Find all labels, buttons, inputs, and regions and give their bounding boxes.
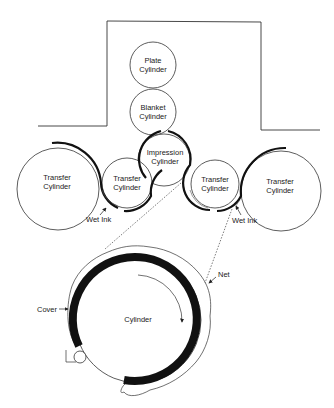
- cover-annotation: Cover: [37, 305, 68, 314]
- transfer-left-large-label-2: Cylinder: [43, 182, 71, 191]
- impression-cylinder-label-1: Impression: [147, 148, 184, 157]
- transfer-right-large-label-1: Transfer: [266, 177, 294, 186]
- blanket-cylinder: Blanket Cylinder: [130, 89, 176, 135]
- detail-cylinder: Cylinder: [66, 246, 211, 396]
- net-arrow-icon: [209, 277, 216, 283]
- press-frame: [38, 21, 320, 130]
- net-label: Net: [218, 270, 231, 279]
- plate-cylinder: Plate Cylinder: [130, 42, 176, 88]
- blanket-cylinder-label-1: Blanket: [140, 103, 166, 112]
- net-annotation: Net: [209, 270, 231, 283]
- printing-press-diagram: Plate Cylinder Blanket Cylinder Impressi…: [0, 0, 334, 408]
- impression-cylinder-label-2: Cylinder: [151, 157, 179, 166]
- wet-ink-right-label: Wet Ink: [232, 216, 258, 225]
- detail-cylinder-label: Cylinder: [124, 315, 152, 324]
- transfer-right-large-label-2: Cylinder: [266, 186, 294, 195]
- plate-cylinder-label-1: Plate: [144, 56, 161, 65]
- transfer-right-small-label-1: Transfer: [201, 175, 229, 184]
- plate-cylinder-label-2: Cylinder: [139, 65, 167, 74]
- clamp-roller: [74, 351, 86, 363]
- blanket-cylinder-label-2: Cylinder: [139, 112, 167, 121]
- transfer-cylinder-left-small: Transfer Cylinder: [102, 158, 152, 208]
- transfer-left-small-label-1: Transfer: [113, 174, 141, 183]
- wet-ink-right-arrow-icon: [236, 206, 241, 215]
- cover-label: Cover: [37, 305, 58, 314]
- transfer-right-small-label-2: Cylinder: [201, 184, 229, 193]
- wet-ink-left-arrow-icon: [100, 208, 106, 215]
- transfer-left-small-label-2: Cylinder: [113, 183, 141, 192]
- wet-ink-left-label: Wet Ink: [86, 215, 112, 224]
- transfer-cylinder-right-small: Transfer Cylinder: [191, 160, 239, 208]
- transfer-left-large-label-1: Transfer: [43, 173, 71, 182]
